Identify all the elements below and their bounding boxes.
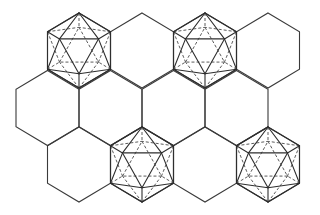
hidden-edge xyxy=(287,146,299,176)
front-edge xyxy=(174,39,186,69)
outline-edge xyxy=(79,69,111,88)
outline-edge xyxy=(111,127,143,146)
front-edge xyxy=(287,146,299,153)
outline-edge xyxy=(48,69,80,88)
hidden-edge xyxy=(142,176,161,202)
hidden-edge xyxy=(48,32,60,62)
outline-edge xyxy=(237,127,269,146)
front-edge xyxy=(205,39,224,74)
front-edge xyxy=(98,39,110,69)
front-edge xyxy=(287,153,299,183)
hidden-edge xyxy=(98,32,110,62)
front-edge xyxy=(142,153,161,188)
hidden-edge xyxy=(237,146,249,176)
front-edge xyxy=(142,127,161,153)
outline-edge xyxy=(142,127,174,146)
outline-edge xyxy=(268,183,300,202)
hidden-edge xyxy=(174,32,186,62)
hidden-edge xyxy=(268,176,287,202)
front-edge xyxy=(48,32,60,39)
front-edge xyxy=(268,153,287,188)
outline-edge xyxy=(205,13,237,32)
hidden-edge xyxy=(205,62,224,88)
hexagon-bottom-1 xyxy=(48,127,111,202)
front-edge xyxy=(237,153,249,183)
icosahedron-4 xyxy=(237,127,300,202)
front-edge xyxy=(249,127,268,153)
hidden-edge xyxy=(79,62,98,88)
front-edge xyxy=(224,32,236,39)
outline-edge xyxy=(142,183,174,202)
front-edge xyxy=(48,39,60,69)
hidden-edge xyxy=(249,176,268,202)
front-edge xyxy=(174,32,186,39)
hexagon-bottom-3 xyxy=(174,127,237,202)
outline-edge xyxy=(111,183,143,202)
outline-edge xyxy=(237,183,269,202)
outline-edge xyxy=(79,13,111,32)
front-edge xyxy=(123,127,142,153)
hidden-edge xyxy=(123,176,142,202)
hex-icosahedron-diagram xyxy=(0,0,320,215)
front-edge xyxy=(186,13,205,39)
front-edge xyxy=(161,146,173,153)
front-edge xyxy=(224,39,236,69)
front-edge xyxy=(111,153,123,183)
outline-edge xyxy=(174,69,206,88)
front-edge xyxy=(205,13,224,39)
outline-edge xyxy=(48,13,80,32)
hidden-edge xyxy=(111,146,123,176)
icosahedra-layer xyxy=(48,13,300,202)
hidden-edge xyxy=(224,32,236,62)
front-edge xyxy=(111,146,123,153)
outline-edge xyxy=(174,13,206,32)
outline-edge xyxy=(205,69,237,88)
icosahedron-3 xyxy=(111,127,174,202)
outline-edge xyxy=(268,127,300,146)
front-edge xyxy=(237,146,249,153)
front-edge xyxy=(79,39,98,74)
front-edge xyxy=(60,13,79,39)
front-edge xyxy=(161,153,173,183)
hidden-edge xyxy=(186,62,205,88)
front-edge xyxy=(268,127,287,153)
hidden-edge xyxy=(60,62,79,88)
front-edge xyxy=(79,13,98,39)
front-edge xyxy=(98,32,110,39)
hidden-edge xyxy=(161,146,173,176)
